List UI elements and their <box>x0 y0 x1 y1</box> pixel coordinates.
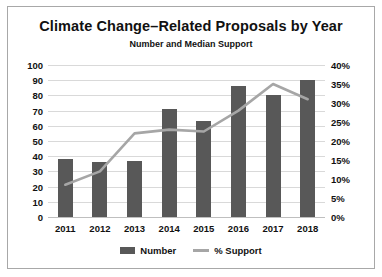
y-axis-left-tick: 70 <box>32 105 43 116</box>
y-axis-right-tick: 25% <box>331 117 350 128</box>
x-axis-tick: 2018 <box>297 223 318 234</box>
bar-swatch-icon <box>120 247 135 254</box>
legend-item-number: Number <box>120 245 176 256</box>
y-axis-left-tick: 100 <box>27 60 43 71</box>
y-axis-right-tick: 10% <box>331 174 350 185</box>
line-series-percent-support <box>48 65 325 217</box>
chart-legend: Number % Support <box>8 245 374 256</box>
y-axis-right-tick: 5% <box>331 193 345 204</box>
line-swatch-icon <box>193 249 209 252</box>
y-axis-left-tick: 90 <box>32 75 43 86</box>
plot-area: 0102030405060708090100 0%5%10%15%20%25%3… <box>48 65 325 217</box>
legend-label-percent-support: % Support <box>214 245 262 256</box>
x-axis-tick: 2016 <box>228 223 249 234</box>
y-axis-left-tick: 40 <box>32 151 43 162</box>
x-axis-tick: 2014 <box>159 223 180 234</box>
chart-subtitle: Number and Median Support <box>8 39 374 49</box>
x-axis-tick: 2012 <box>89 223 110 234</box>
y-axis-right-tick: 40% <box>331 60 350 71</box>
y-axis-right-tick: 15% <box>331 155 350 166</box>
y-axis-right-tick: 30% <box>331 98 350 109</box>
legend-label-number: Number <box>140 245 176 256</box>
y-axis-left-tick: 30 <box>32 166 43 177</box>
y-axis-right-tick: 20% <box>331 136 350 147</box>
x-axis-tick: 2013 <box>124 223 145 234</box>
legend-item-percent-support: % Support <box>193 245 262 256</box>
y-axis-left-tick: 50 <box>32 136 43 147</box>
y-axis-left-tick: 60 <box>32 120 43 131</box>
y-axis-right-tick: 0% <box>331 212 345 223</box>
chart-container: Climate Change–Related Proposals by Year… <box>7 6 375 269</box>
y-axis-left-tick: 20 <box>32 181 43 192</box>
chart-title: Climate Change–Related Proposals by Year <box>8 18 374 34</box>
y-axis-left-tick: 80 <box>32 90 43 101</box>
y-axis-left-tick: 10 <box>32 196 43 207</box>
y-axis-left-tick: 0 <box>38 212 43 223</box>
gridline <box>48 217 325 218</box>
y-axis-right-tick: 35% <box>331 79 350 90</box>
x-axis-tick: 2017 <box>262 223 283 234</box>
x-axis-tick: 2011 <box>55 223 76 234</box>
x-axis-tick: 2015 <box>193 223 214 234</box>
